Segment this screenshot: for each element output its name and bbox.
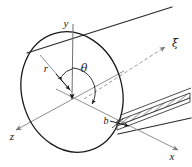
- diagram-canvas: y x z ξ r θ b: [0, 0, 192, 167]
- y-axis-line: [72, 24, 73, 99]
- xi-axis-dashed-line: [84, 47, 165, 99]
- theta-angle-label: θ: [81, 62, 88, 75]
- radius-arrow-head-line: [56, 74, 70, 90]
- xi-axis-group: [84, 47, 165, 99]
- z-axis-label: z: [9, 130, 15, 142]
- x-axis-label: x: [169, 150, 175, 162]
- technical-diagram-figure: y x z ξ r θ b: [0, 0, 192, 167]
- hatched-slot-strip: [117, 88, 191, 130]
- y-axis-label: y: [63, 17, 69, 29]
- theta-angle-arc-inner: [62, 69, 72, 76]
- y-axis-group: [72, 24, 73, 99]
- b-dimension-label: b: [104, 115, 109, 126]
- cylinder-top-edge-line: [27, 7, 172, 53]
- xi-axis-label: ξ: [172, 37, 179, 50]
- x-axis-line: [56, 89, 178, 150]
- x-axis-group: [56, 89, 178, 150]
- radius-label: r: [44, 62, 49, 74]
